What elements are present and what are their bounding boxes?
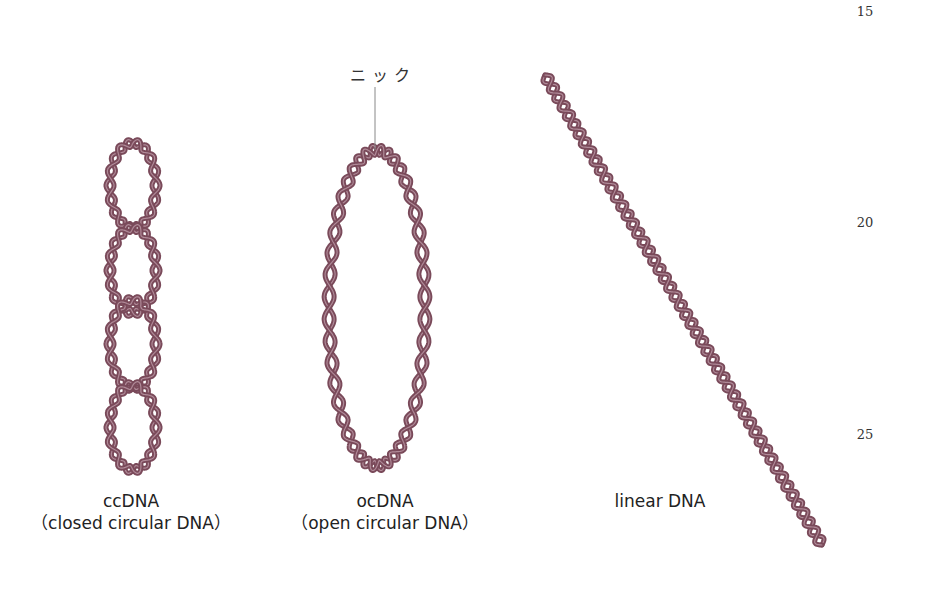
- ocdna-name: ocDNA: [280, 490, 490, 512]
- ocdna-subtitle: （open circular DNA）: [280, 512, 490, 534]
- linear-dna-caption: linear DNA: [590, 490, 730, 512]
- ccdna-name: ccDNA: [0, 490, 262, 512]
- ccdna-caption: ccDNA （closed circular DNA）: [0, 490, 262, 534]
- nick-label: ニック: [350, 62, 416, 86]
- line-number-15: 15: [850, 4, 880, 19]
- ocdna-relaxed-circle-diagram: [324, 146, 430, 471]
- ccdna-subtitle: （closed circular DNA）: [0, 512, 262, 534]
- ocdna-caption: ocDNA （open circular DNA）: [280, 490, 490, 534]
- ccdna-supercoiled-diagram: [106, 140, 160, 474]
- line-number-20: 20: [850, 215, 880, 230]
- linear-dna-diagram: [543, 75, 824, 545]
- linear-dna-name: linear DNA: [590, 490, 730, 512]
- line-number-25: 25: [850, 427, 880, 442]
